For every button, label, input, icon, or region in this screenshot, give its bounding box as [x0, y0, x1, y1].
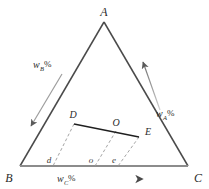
left-axis-symbol: w: [33, 59, 40, 70]
right-axis-unit: %: [167, 108, 175, 118]
ternary-diagram-figure: A B C D O E d o e w B % w A % w C %: [0, 0, 209, 189]
left-axis-label: w B %: [33, 59, 52, 72]
vertex-label-c: C: [194, 171, 203, 185]
ternary-diagram-canvas: A B C D O E d o e w B % w A % w C %: [0, 0, 209, 189]
triangle-side-ac: [104, 22, 188, 166]
projection-line-e: [118, 137, 139, 166]
point-label-d-upper: D: [68, 109, 77, 120]
triangle-side-ab: [20, 22, 104, 166]
point-label-o-lower: o: [89, 155, 94, 165]
point-label-e-upper: E: [144, 126, 151, 137]
bottom-axis-symbol: w: [57, 173, 64, 184]
left-axis-unit: %: [44, 59, 52, 69]
point-label-d-lower: d: [47, 155, 52, 165]
right-axis-symbol: w: [156, 108, 163, 119]
point-label-o-upper: O: [112, 117, 119, 128]
projection-line-d: [53, 124, 74, 166]
tie-line-doe: [74, 124, 139, 137]
left-axis-arrow: [31, 74, 62, 126]
right-axis-label: w A %: [156, 108, 175, 121]
bottom-axis-unit: %: [68, 173, 76, 183]
vertex-label-a: A: [99, 5, 108, 19]
vertex-label-b: B: [5, 171, 13, 185]
point-label-e-lower: e: [112, 155, 116, 165]
bottom-axis-label: w C %: [57, 173, 76, 186]
